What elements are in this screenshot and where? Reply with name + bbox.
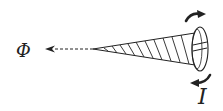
flux-arrow [45,46,93,53]
rotation-arrow-top [186,10,206,21]
screw-icon [93,27,208,71]
current-label: I [198,84,207,109]
flux-label: Φ [16,40,31,61]
screw-rule-diagram [0,0,223,111]
